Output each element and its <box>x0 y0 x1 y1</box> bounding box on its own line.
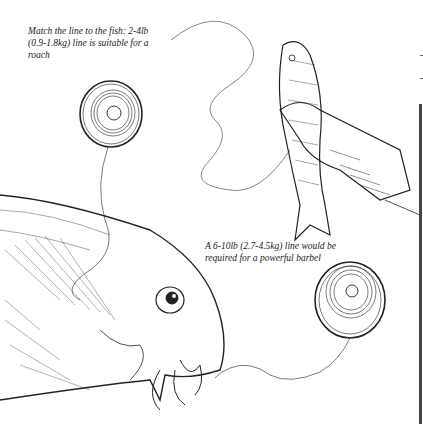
page-edge-bar <box>419 104 422 424</box>
line-to-roach <box>171 21 290 190</box>
barbel-head <box>0 195 224 410</box>
barbel-line-caption: A 6-10lb (2.7-4.5kg) line would be requi… <box>205 240 365 264</box>
roach-in-hand <box>279 42 420 240</box>
roach-line-caption: Match the line to the fish: 2-4lb (0.9-1… <box>28 25 158 61</box>
fishing-line-illustration <box>0 0 423 431</box>
line-spool-large <box>215 262 385 379</box>
line-spool-small <box>72 81 142 300</box>
